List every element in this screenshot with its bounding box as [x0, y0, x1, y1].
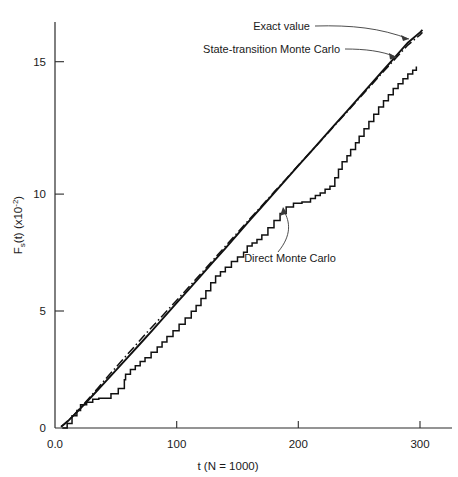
x-tick-label-0: 0.0 — [47, 438, 63, 450]
y-tick-label-10: 10 — [33, 188, 46, 200]
annotation-direct-monte-carlo-label: Direct Monte Carlo — [244, 252, 336, 264]
y-axis-title-close: ) — [12, 196, 24, 200]
series-direct-monte-carlo — [62, 67, 416, 428]
y-axis-title-rest: (t) (x10 — [12, 207, 24, 243]
x-tick-label-200: 200 — [289, 438, 308, 450]
annotation-state-transition-label: State-transition Monte Carlo — [203, 43, 340, 55]
annotation-exact-value-label: Exact value — [253, 20, 310, 32]
y-tick-label-5: 5 — [40, 305, 46, 317]
chart-figure: 15 10 5 0 0.0 100 200 300 t (N = 1000) F… — [0, 0, 458, 477]
y-ticks-group: 15 10 5 0 — [33, 56, 64, 434]
y-tick-label-0: 0 — [40, 422, 46, 434]
annotation-state-transition: State-transition Monte Carlo — [203, 43, 397, 60]
axes-group — [55, 22, 452, 428]
x-tick-label-100: 100 — [167, 438, 186, 450]
x-ticks-group: 0.0 100 200 300 — [47, 421, 430, 450]
annotation-direct-monte-carlo: Direct Monte Carlo — [244, 207, 336, 264]
y-axis-title: Fs(t) (x10-2) — [11, 196, 27, 255]
x-tick-label-300: 300 — [410, 438, 429, 450]
chart-canvas: 15 10 5 0 0.0 100 200 300 t (N = 1000) F… — [0, 0, 458, 477]
annotation-exact-value-arrowhead — [401, 35, 409, 41]
annotation-state-transition-leader — [345, 49, 396, 57]
x-axis-title: t (N = 1000) — [197, 460, 258, 472]
series-group — [61, 30, 422, 428]
y-tick-label-15: 15 — [33, 56, 46, 68]
annotation-exact-value: Exact value — [253, 20, 409, 41]
annotation-exact-value-leader — [315, 26, 409, 39]
svg-text:Fs(t) (x10-2): Fs(t) (x10-2) — [11, 196, 27, 255]
y-axis-title-F: F — [12, 247, 24, 254]
